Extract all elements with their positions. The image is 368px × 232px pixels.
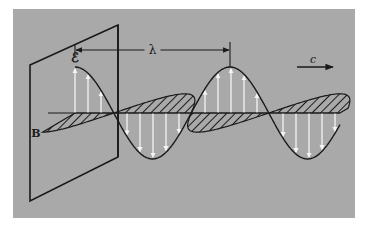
wavelength-label: λ: [149, 43, 157, 57]
diagram-canvas: λ c ℰ B: [0, 0, 368, 232]
electric-field-label: ℰ: [71, 50, 79, 65]
em-wave-diagram: λ c ℰ B: [0, 0, 368, 232]
magnetic-field-label: B: [31, 127, 40, 140]
speed-of-light-label: c: [310, 53, 316, 66]
